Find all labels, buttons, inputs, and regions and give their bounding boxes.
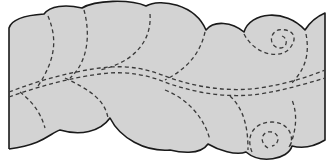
quilt-pattern-graphic: [0, 0, 330, 162]
feather-border-illustration: Quilted feather border pattern: [0, 0, 330, 162]
